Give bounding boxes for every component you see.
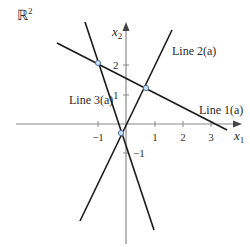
line-3-label: Line 3(a) bbox=[69, 93, 113, 107]
line-3 bbox=[85, 22, 154, 230]
y-axis-label: x2 bbox=[111, 24, 122, 41]
x-axis-arrow-icon bbox=[233, 121, 242, 128]
line-1-label: Line 1(a) bbox=[199, 103, 243, 117]
x-tick-label: 1 bbox=[152, 131, 158, 143]
linear-system-diagram: ℝ2 −1123 21−1 x1 x2 Line 2(a) Line 1(a) … bbox=[0, 0, 250, 247]
y-tick-label: −1 bbox=[133, 147, 145, 159]
y-axis-arrow-icon bbox=[123, 22, 130, 31]
x-tick-label: −1 bbox=[92, 131, 104, 143]
intersection-point bbox=[143, 85, 148, 90]
intersection-point bbox=[95, 60, 100, 65]
line-2-label: Line 2(a) bbox=[172, 44, 216, 58]
x-tick-label: 2 bbox=[180, 131, 186, 143]
x-tick-label: 3 bbox=[208, 131, 214, 143]
space-label: ℝ2 bbox=[17, 6, 33, 23]
y-tick-label: 1 bbox=[113, 89, 119, 101]
x-axis-label: x1 bbox=[233, 128, 244, 145]
intersection-point bbox=[118, 130, 123, 135]
y-tick-label: 2 bbox=[113, 59, 119, 71]
